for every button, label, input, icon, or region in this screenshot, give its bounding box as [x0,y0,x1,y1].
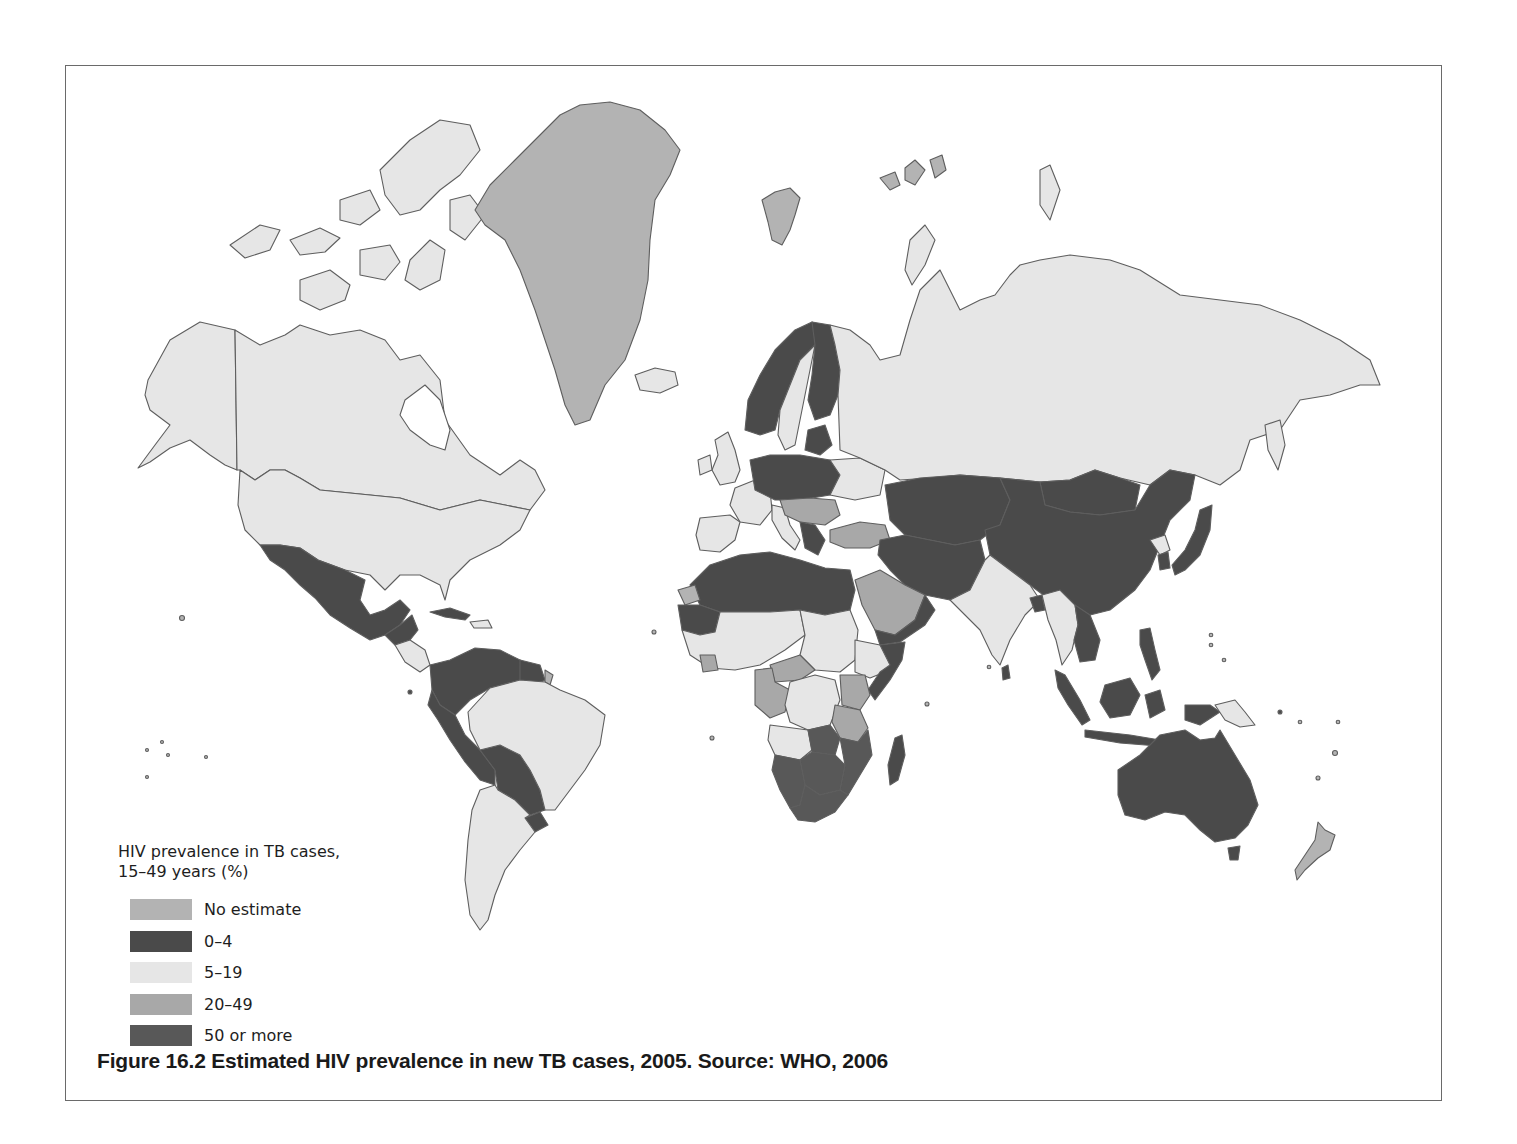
region-severnaya-zemlya[interactable] [1040,165,1060,220]
legend-title-line1: HIV prevalence in TB cases, [118,842,340,862]
legend-item-no-estimate: No estimate [118,894,340,926]
island-dot [205,756,208,759]
legend-swatch [130,931,192,952]
island-dot [1316,776,1320,780]
oceania [1118,730,1335,880]
region-uganda-kenya[interactable] [840,675,870,710]
legend-swatch [130,1025,192,1046]
island-dot [1209,643,1213,647]
region-sudan[interactable] [800,610,858,672]
figure-caption: Figure 16.2 Estimated HIV prevalence in … [97,1049,888,1073]
region-iberia[interactable] [696,515,740,552]
island-dot [408,690,412,694]
region-central-america-south[interactable] [395,640,430,672]
region-japan[interactable] [1172,505,1212,575]
region-svalbard[interactable] [762,188,800,245]
island-dot [146,776,149,779]
legend-swatch [130,962,192,983]
region-novaya-zemlya[interactable] [905,225,935,285]
region-namibia[interactable] [772,755,805,808]
south-america [428,648,605,930]
region-philippines[interactable] [1140,628,1160,680]
region-balkans-greece[interactable] [800,522,825,555]
island-dot [710,736,714,740]
legend-title-line2: 15–49 years (%) [118,862,340,882]
island-dot [167,754,170,757]
region-sakhalin-kamchatka[interactable] [1265,420,1285,470]
region-papua-new-guinea[interactable] [1215,700,1255,727]
island-dot [1298,720,1302,724]
island-dot [180,616,185,621]
region-iceland[interactable] [635,368,678,393]
region-cuba[interactable] [430,608,470,620]
legend-item-20-49: 20–49 [118,989,340,1021]
island-dot [1336,720,1340,724]
region-new-zealand[interactable] [1295,822,1335,880]
region-borneo[interactable] [1100,678,1140,718]
region-australia[interactable] [1118,730,1258,842]
island-dot [1222,658,1226,662]
legend-swatch [130,994,192,1015]
island-dot [1278,710,1282,714]
region-germany-poland-central[interactable] [750,455,840,500]
region-madagascar[interactable] [888,735,905,785]
region-korea-south[interactable] [1158,552,1170,570]
legend-title: HIV prevalence in TB cases, 15–49 years … [118,842,340,882]
region-alaska[interactable] [138,322,237,470]
region-tasmania[interactable] [1228,846,1240,860]
region-north-africa[interactable] [690,552,855,615]
region-cote-divoire[interactable] [700,655,718,672]
legend-item-50-or-more: 50 or more [118,1020,340,1052]
island-dot [987,665,991,669]
region-franz-josef-land[interactable] [880,155,946,190]
region-baltics[interactable] [805,425,832,455]
legend-swatch [130,899,192,920]
map-legend: HIV prevalence in TB cases, 15–49 years … [118,842,340,1052]
island-dot [146,749,149,752]
island-dot [652,630,656,634]
legend-label: 0–4 [204,932,232,951]
legend-label: 5–19 [204,963,243,982]
legend-item-0-4: 0–4 [118,926,340,958]
region-ireland[interactable] [698,455,712,475]
region-malaysia-sumatra[interactable] [1055,670,1090,725]
island-dot [1209,633,1213,637]
region-uk[interactable] [712,432,740,485]
legend-label: 20–49 [204,995,253,1014]
region-canada-arctic-islands[interactable] [230,120,485,310]
legend-label: No estimate [204,900,301,919]
asia [855,470,1255,746]
region-sri-lanka[interactable] [1002,665,1010,680]
island-dot [925,702,929,706]
island-dot [161,741,164,744]
region-russia[interactable] [830,255,1380,485]
legend-item-5-19: 5–19 [118,957,340,989]
region-hispaniola[interactable] [470,620,492,628]
island-dot [1333,751,1338,756]
legend-label: 50 or more [204,1026,292,1045]
